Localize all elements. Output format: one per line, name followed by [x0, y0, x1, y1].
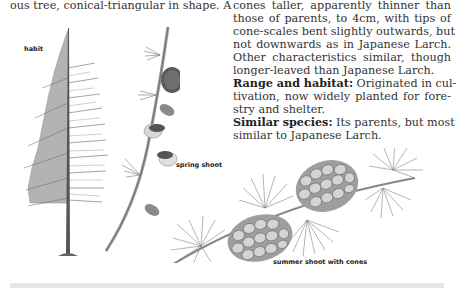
right-text-column: cones taller, apparently thinner than th… — [233, 0, 451, 142]
summer-shoot-illustration — [165, 148, 430, 263]
range-habitat-text-1: Originated in cul- — [353, 77, 456, 90]
left-text-column: ous tree, conical-triangular in shape. A — [10, 0, 225, 12]
page-bottom-shadow — [10, 283, 444, 288]
description-line-3: cone-scales bent slightly outwards, but — [233, 25, 451, 38]
summer-shoot-caption: summer shoot with cones — [273, 258, 367, 266]
similar-species-line-2: similar to Japanese Larch. — [233, 129, 451, 142]
similar-species-line-1: Similar species: Its parents, but most — [233, 116, 451, 129]
habit-caption: habit — [24, 45, 43, 53]
left-text-line: ous tree, conical-triangular in shape. A — [10, 0, 231, 12]
similar-species-label: Similar species: — [233, 115, 333, 129]
range-habitat-label: Range and habitat: — [233, 76, 353, 90]
range-habitat-line-2: tivation, now widely planted for fore- — [233, 90, 451, 103]
habit-tree-illustration — [10, 28, 110, 268]
description-line-2: those of parents, to 4cm, with tips of — [233, 12, 451, 25]
similar-species-text-1: Its parents, but most — [333, 116, 455, 129]
range-habitat-line-1: Range and habitat: Originated in cul- — [233, 77, 451, 90]
description-line-1: cones taller, apparently thinner than — [233, 0, 451, 12]
description-line-4: not downwards as in Japanese Larch. — [233, 38, 451, 51]
description-line-5: Other characteristics similar, though — [233, 51, 451, 64]
